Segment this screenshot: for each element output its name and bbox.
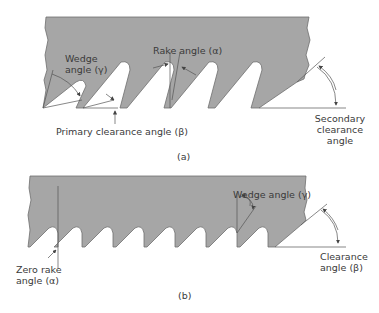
blade-b (28, 176, 307, 247)
caption-a: (a) (177, 151, 190, 162)
zero-rake-label: Zero rake angle (α) (16, 264, 62, 286)
secondary-clearance-label: Secondary clearance angle (300, 113, 379, 146)
wedge-angle-label-b: Wedge angle (γ) (233, 189, 311, 200)
primary-clearance-label: Primary clearance angle (β) (56, 126, 188, 137)
caption-b: (b) (178, 290, 191, 301)
zero-rake-line2: angle (α) (16, 275, 62, 286)
wedge-line2: angle (γ) (65, 64, 107, 75)
wedge-angle-label-a: Wedge angle (γ) (65, 53, 107, 75)
clearance-line2: angle (β) (320, 262, 368, 273)
clearance-line1: Clearance (320, 251, 368, 262)
secondary-line1: Secondary (300, 113, 379, 124)
rake-angle-label-a: Rake angle (α) (153, 45, 222, 56)
clearance-angle-label-b: Clearance angle (β) (320, 251, 368, 273)
wedge-line1: Wedge (65, 53, 107, 64)
secondary-line2: clearance (300, 124, 379, 135)
zero-rake-line1: Zero rake (16, 264, 62, 275)
secondary-line3: angle (300, 135, 379, 146)
